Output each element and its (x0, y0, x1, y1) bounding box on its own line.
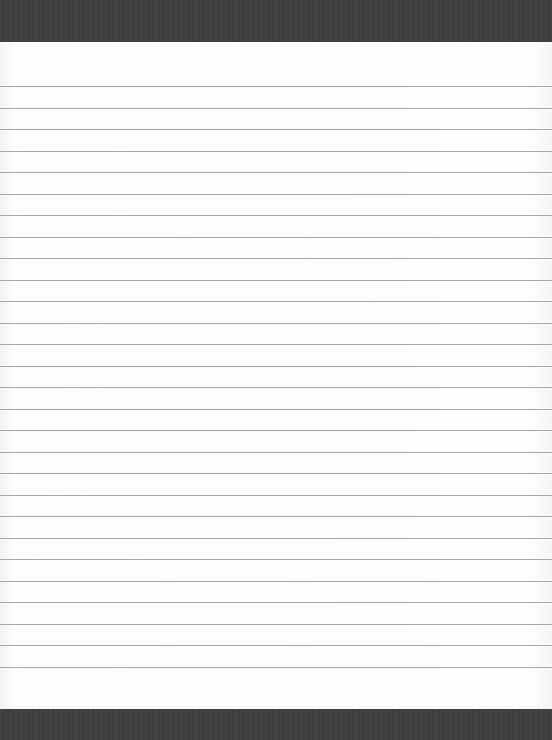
ruled-line (0, 559, 552, 560)
ruled-line (0, 194, 552, 195)
ruled-line (0, 538, 552, 539)
ruled-line (0, 602, 552, 603)
ruled-line (0, 237, 552, 238)
ruled-line (0, 129, 552, 130)
bottom-dark-band (0, 709, 552, 740)
ruled-line (0, 86, 552, 87)
ruled-line (0, 581, 552, 582)
ruled-line (0, 495, 552, 496)
ruled-line (0, 172, 552, 173)
ruled-line (0, 452, 552, 453)
ruled-line (0, 301, 552, 302)
ruled-line (0, 215, 552, 216)
ruled-line (0, 323, 552, 324)
ruled-line (0, 667, 552, 668)
ruled-line (0, 516, 552, 517)
ruled-line (0, 473, 552, 474)
lined-paper-sheet (0, 42, 552, 709)
ruled-line (0, 645, 552, 646)
ruled-line (0, 387, 552, 388)
top-dark-band (0, 0, 552, 42)
ruled-line (0, 108, 552, 109)
ruled-line (0, 366, 552, 367)
ruled-line (0, 430, 552, 431)
ruled-line (0, 151, 552, 152)
ruled-line (0, 409, 552, 410)
ruled-line (0, 344, 552, 345)
ruled-line (0, 258, 552, 259)
ruled-line (0, 280, 552, 281)
ruled-line (0, 624, 552, 625)
